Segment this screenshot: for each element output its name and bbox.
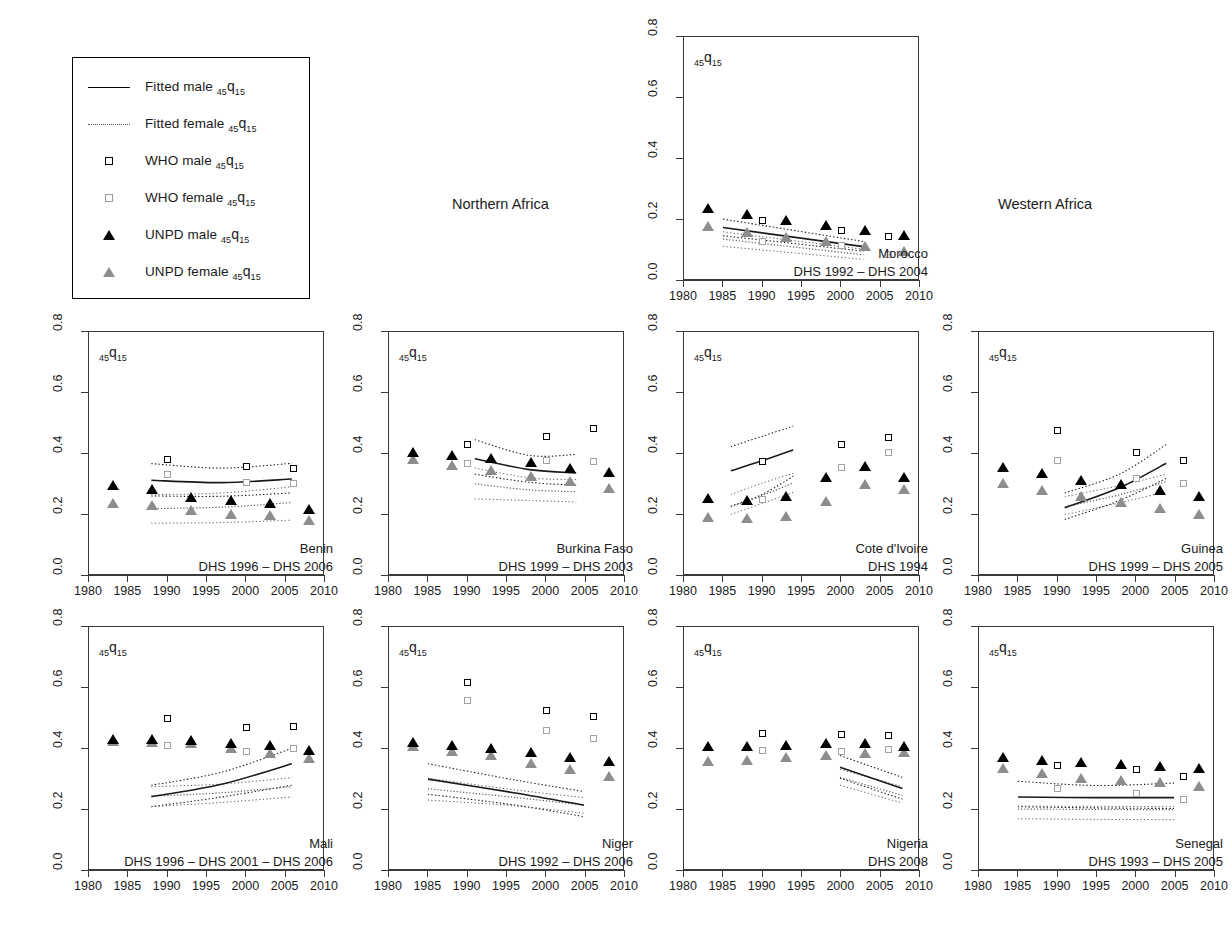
panel-country-label: Benin <box>300 541 333 556</box>
legend-box: Fitted male 45q15Fitted female 45q15WHO … <box>72 57 310 299</box>
x-axis-tick <box>545 870 546 877</box>
x-axis-tick-label: 2005 <box>866 879 894 893</box>
unpd-female-point <box>997 478 1009 488</box>
unpd-female-point <box>780 232 792 242</box>
x-axis-tick <box>427 575 428 582</box>
fitted-male-upper-ci <box>1018 781 1174 785</box>
x-axis-tick <box>840 575 841 582</box>
plot-area-nigeria <box>683 626 919 870</box>
legend-item-label: UNPD male 45q15 <box>145 226 249 245</box>
unpd-male-point <box>525 747 537 757</box>
unpd-male-point <box>1193 491 1205 501</box>
x-axis-tick <box>206 575 207 582</box>
legend-item-label: Fitted female 45q15 <box>145 115 257 134</box>
y-axis-tick <box>676 575 683 576</box>
x-axis-tick <box>127 575 128 582</box>
fitted-male-line <box>1018 797 1174 798</box>
x-axis-tick-label: 2010 <box>905 584 933 598</box>
y-axis-tick-label: 0.6 <box>51 375 65 392</box>
y-axis-tick-label: 0.6 <box>941 670 955 687</box>
y-axis-tick-label: 0.8 <box>941 314 955 331</box>
x-axis-tick <box>1057 870 1058 877</box>
y-axis-tick <box>381 809 388 810</box>
y-axis-tick-label: 0.8 <box>646 19 660 36</box>
panel-survey-label: DHS 2008 <box>868 854 928 869</box>
x-axis-tick-label: 2005 <box>866 289 894 303</box>
who-female-point <box>759 747 766 754</box>
x-axis-tick-label: 1980 <box>669 584 697 598</box>
unpd-female-point <box>525 758 537 768</box>
plot-area-niger <box>388 626 624 870</box>
who-male-point <box>543 707 550 714</box>
who-female-point <box>885 746 892 753</box>
y-axis-tick-label: 0.8 <box>51 314 65 331</box>
x-axis-tick-label: 2010 <box>610 879 638 893</box>
unpd-male-point <box>564 752 576 762</box>
unpd-female-triangle-icon <box>103 267 115 277</box>
panel-survey-label: DHS 1992 – DHS 2004 <box>794 264 928 279</box>
unpd-male-point <box>1036 755 1048 765</box>
x-axis-tick-label: 1990 <box>1043 584 1071 598</box>
x-axis-tick <box>427 870 428 877</box>
fitted-female-lower-ci <box>475 499 576 502</box>
y-axis-tick <box>381 626 388 627</box>
y-axis-tick <box>676 870 683 871</box>
fitted-curves <box>979 332 1213 574</box>
fitted-female-lower-ci <box>840 785 902 803</box>
unpd-male-point <box>1115 759 1127 769</box>
unpd-male-point <box>702 203 714 213</box>
y-axis-tick-label: 0.2 <box>646 202 660 219</box>
unpd-male-point <box>997 752 1009 762</box>
x-axis-tick-label: 2000 <box>231 584 259 598</box>
unpd-female-point <box>702 221 714 231</box>
x-axis-tick <box>585 575 586 582</box>
unpd-male-point <box>859 738 871 748</box>
x-axis-tick <box>683 870 684 877</box>
x-axis-tick-label: 1995 <box>787 879 815 893</box>
y-axis-tick <box>676 158 683 159</box>
panel-country-label: Mali <box>309 836 333 851</box>
fitted-female-lower-ci <box>151 797 291 807</box>
who-female-point <box>164 471 171 478</box>
legend-item-square-open-grey: WHO female 45q15 <box>73 181 309 215</box>
unpd-female-point <box>603 771 615 781</box>
unpd-male-point <box>485 743 497 753</box>
unpd-female-point <box>1193 781 1205 791</box>
unpd-female-point <box>859 479 871 489</box>
fitted-female-lower-ci <box>428 800 584 813</box>
y-axis-tick-label: 0.6 <box>51 670 65 687</box>
unpd-male-point <box>185 735 197 745</box>
panel-ylabel: 45q15 <box>694 49 722 68</box>
y-axis-tick <box>676 626 683 627</box>
who-male-point <box>464 441 471 448</box>
unpd-female-point <box>185 505 197 515</box>
y-axis-tick <box>381 748 388 749</box>
fitted-female-upper-ci <box>151 778 291 787</box>
who-male-point <box>290 465 297 472</box>
y-axis-tick-label: 0.6 <box>646 80 660 97</box>
unpd-male-point <box>820 220 832 230</box>
who-male-point <box>164 456 171 463</box>
x-axis-tick-label: 1995 <box>1082 879 1110 893</box>
who-male-point <box>885 732 892 739</box>
y-axis-tick-label: 0.0 <box>51 853 65 870</box>
who-male-point <box>543 433 550 440</box>
plot-area-cote-d-ivoire <box>683 331 919 575</box>
legend-item-square-open-black: WHO male 45q15 <box>73 144 309 178</box>
x-axis-tick <box>127 870 128 877</box>
x-axis-tick-label: 1985 <box>113 584 141 598</box>
x-axis-tick <box>880 870 881 877</box>
x-axis-tick <box>1057 575 1058 582</box>
x-axis-tick-label: 2000 <box>826 289 854 303</box>
who-female-point <box>464 697 471 704</box>
y-axis-tick <box>381 514 388 515</box>
x-axis-tick-label: 2005 <box>571 879 599 893</box>
panel-country-label: Guinea <box>1181 541 1223 556</box>
who-male-point <box>243 463 250 470</box>
legend-item-label: Fitted male 45q15 <box>145 78 245 97</box>
x-axis-tick <box>1175 870 1176 877</box>
unpd-male-point <box>303 745 315 755</box>
x-axis-tick <box>167 870 168 877</box>
unpd-female-point <box>264 510 276 520</box>
unpd-female-point <box>741 755 753 765</box>
